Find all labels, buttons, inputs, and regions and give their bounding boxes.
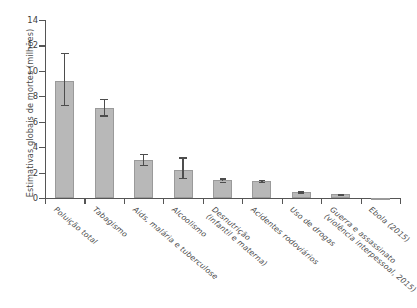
error-bar-cap-upper	[140, 154, 148, 155]
y-tick-label-2: 2	[14, 168, 38, 178]
error-bar-line	[104, 99, 105, 116]
error-bar-cap-lower	[259, 182, 265, 183]
y-tick-6	[39, 122, 45, 123]
y-tick-label-6: 6	[14, 117, 38, 127]
x-tick-7	[321, 198, 322, 204]
y-tick-label-8: 8	[14, 91, 38, 101]
bar	[95, 108, 114, 198]
error-bar-cap-lower	[298, 192, 304, 193]
error-bar-cap-lower	[179, 178, 187, 179]
x-axis-spine	[45, 198, 400, 199]
error-bar-cap-lower	[61, 105, 69, 106]
error-bar-cap-lower	[220, 182, 226, 183]
x-axis-label: Guerra e assassinato(violência interpess…	[322, 205, 417, 294]
error-bar-cap-upper	[179, 157, 187, 158]
error-bar-cap-lower	[338, 194, 344, 195]
y-tick-label-4: 4	[14, 142, 38, 152]
error-bar-cap-upper	[100, 99, 108, 100]
y-tick-8	[39, 96, 45, 97]
x-tick-5	[242, 198, 243, 204]
x-label-line: Alcoolismo	[170, 205, 208, 239]
x-tick-0	[45, 198, 46, 204]
x-tick-4	[203, 198, 204, 204]
error-bar-cap-lower	[140, 165, 148, 166]
y-axis-spine	[45, 20, 46, 199]
x-tick-2	[124, 198, 125, 204]
error-bar-cap-lower	[100, 115, 108, 116]
error-bar-line	[182, 157, 183, 177]
y-tick-label-0: 0	[14, 193, 38, 203]
x-axis-label: Alcoolismo	[170, 205, 208, 239]
error-bar-cap-upper	[61, 53, 69, 54]
x-tick-6	[282, 198, 283, 204]
x-label-line: Guerra e assassinato	[328, 205, 397, 265]
error-bar-line	[143, 154, 144, 165]
y-tick-2	[39, 173, 45, 174]
bar	[213, 180, 232, 198]
x-tick-3	[163, 198, 164, 204]
y-tick-14	[39, 20, 45, 21]
x-tick-1	[84, 198, 85, 204]
x-tick-8	[361, 198, 362, 204]
y-tick-12	[39, 45, 45, 46]
x-label-line: Tabagismo	[91, 205, 129, 239]
y-tick-label-12: 12	[14, 40, 38, 50]
error-bar-line	[64, 53, 65, 105]
y-tick-label-14: 14	[14, 15, 38, 25]
error-bar-cap-upper	[259, 180, 265, 181]
y-tick-label-10: 10	[14, 66, 38, 76]
x-axis-label: Tabagismo	[91, 205, 129, 239]
y-tick-4	[39, 147, 45, 148]
error-bar-cap-upper	[220, 178, 226, 179]
bar	[371, 198, 390, 200]
bar-chart-figure: Estimativas globais de mortes (milhões) …	[0, 0, 417, 308]
x-label-line: (violência interpessoal, 2015)	[322, 212, 417, 294]
x-tick-9	[400, 198, 401, 204]
y-tick-10	[39, 71, 45, 72]
